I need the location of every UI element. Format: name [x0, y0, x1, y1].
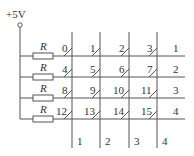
key-label: 15	[141, 105, 153, 117]
matrix-row: R121314154	[20, 103, 185, 122]
resistor-label: R	[39, 82, 47, 94]
resistor-label: R	[39, 103, 47, 115]
key-switch[interactable]: 13	[84, 105, 100, 119]
key-label: 5	[90, 63, 96, 75]
supply-label: +5V	[6, 8, 26, 20]
key-label: 13	[84, 105, 96, 117]
resistor-label: R	[39, 61, 47, 73]
resistor-icon	[33, 116, 53, 122]
key-label: 2	[119, 42, 125, 54]
key-label: 3	[147, 42, 153, 54]
row-label: 1	[173, 42, 179, 54]
key-label: 14	[113, 105, 125, 117]
column-label: 2	[105, 135, 111, 147]
matrix-row: R45672	[20, 61, 185, 80]
matrix-row: R8910113	[20, 82, 185, 101]
supply-node-icon	[18, 23, 22, 27]
key-switch[interactable]: 2	[119, 42, 129, 56]
key-switch[interactable]: 3	[147, 42, 157, 56]
key-switch[interactable]: 15	[141, 105, 157, 119]
resistor-label: R	[39, 40, 47, 52]
resistor-icon	[33, 53, 53, 59]
key-switch[interactable]: 1	[90, 42, 100, 56]
key-switch[interactable]: 7	[147, 63, 157, 77]
row-label: 4	[173, 105, 179, 117]
key-switch[interactable]: 14	[113, 105, 129, 119]
key-label: 8	[62, 84, 68, 96]
key-switch[interactable]: 4	[62, 63, 72, 77]
key-switch[interactable]: 11	[141, 84, 157, 98]
column-label: 1	[77, 135, 83, 147]
resistor-icon	[33, 95, 53, 101]
key-label: 4	[62, 63, 68, 75]
column-label: 3	[134, 135, 140, 147]
key-label: 11	[141, 84, 152, 96]
keypad-matrix-diagram: +5V R01231R45672R8910113R121314154 1 2 3…	[0, 0, 194, 156]
key-label: 1	[90, 42, 96, 54]
key-label: 7	[147, 63, 153, 75]
key-label: 9	[90, 84, 96, 96]
key-switch[interactable]: 6	[119, 63, 129, 77]
key-switch[interactable]: 5	[90, 63, 100, 77]
resistor-icon	[33, 74, 53, 80]
matrix-row: R01231	[20, 40, 185, 59]
key-label: 12	[56, 105, 67, 117]
key-switch[interactable]: 0	[62, 42, 72, 56]
key-switch[interactable]: 10	[113, 84, 129, 98]
column-label: 4	[162, 135, 168, 147]
key-label: 0	[62, 42, 68, 54]
key-switch[interactable]: 8	[62, 84, 72, 98]
row-label: 3	[173, 84, 179, 96]
row-label: 2	[173, 63, 179, 75]
key-switch[interactable]: 12	[56, 105, 72, 119]
key-label: 6	[119, 63, 125, 75]
key-label: 10	[113, 84, 125, 96]
key-switch[interactable]: 9	[90, 84, 100, 98]
